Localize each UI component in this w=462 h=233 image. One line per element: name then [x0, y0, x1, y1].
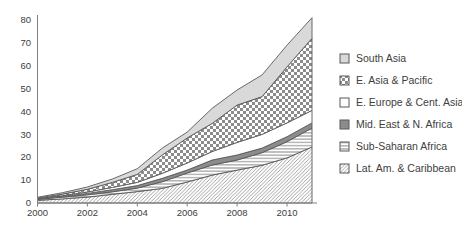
legend-label-mid-east-n-africa: Mid. East & N. Africa — [356, 118, 452, 130]
x-tick-label-2006: 2006 — [177, 207, 198, 218]
legend-label-e-asia-pacific: E. Asia & Pacific — [356, 74, 432, 86]
y-tick-label-20: 20 — [20, 151, 31, 162]
legend-label-e-europe-cent-asia: E. Europe & Cent. Asia — [356, 96, 462, 108]
x-tick-label-2010: 2010 — [276, 207, 297, 218]
y-tick-label-50: 50 — [20, 83, 31, 94]
y-tick-label-80: 80 — [20, 14, 31, 25]
legend-item-south-asia: South Asia — [339, 47, 462, 69]
legend-item-lat-am-caribbean: Lat. Am. & Caribbean — [339, 157, 462, 179]
stacked-area-bands — [38, 18, 313, 203]
x-tick-label-2002: 2002 — [77, 207, 98, 218]
legend-swatch-sub-saharan-africa-icon — [339, 141, 350, 152]
legend-swatch-mid-east-n-africa-icon — [339, 119, 350, 130]
legend-swatch-e-europe-cent-asia-icon — [339, 97, 350, 108]
legend-label-sub-saharan-africa: Sub-Saharan Africa — [356, 140, 447, 152]
legend-item-mid-east-n-africa: Mid. East & N. Africa — [339, 113, 462, 135]
x-axis-ticks — [38, 203, 288, 207]
x-tick-label-2000: 2000 — [27, 207, 48, 218]
legend: South AsiaE. Asia & PacificE. Europe & C… — [339, 47, 462, 179]
legend-swatch-south-asia-icon — [339, 53, 350, 64]
x-tick-label-2004: 2004 — [127, 207, 148, 218]
y-tick-label-40: 40 — [20, 106, 31, 117]
y-tick-label-10: 10 — [20, 174, 31, 185]
legend-swatch-e-asia-pacific-icon — [339, 75, 350, 86]
legend-item-sub-saharan-africa: Sub-Saharan Africa — [339, 135, 462, 157]
legend-label-lat-am-caribbean: Lat. Am. & Caribbean — [356, 162, 456, 174]
y-tick-label-70: 70 — [20, 37, 31, 48]
x-tick-label-2008: 2008 — [227, 207, 248, 218]
legend-label-south-asia: South Asia — [356, 52, 406, 64]
y-tick-label-30: 30 — [20, 129, 31, 140]
legend-item-e-europe-cent-asia: E. Europe & Cent. Asia — [339, 91, 462, 113]
legend-item-e-asia-pacific: E. Asia & Pacific — [339, 69, 462, 91]
y-tick-label-60: 60 — [20, 60, 31, 71]
chart-figure: 0102030405060708020002002200420062008201… — [0, 0, 462, 233]
legend-swatch-lat-am-caribbean-icon — [339, 163, 350, 174]
